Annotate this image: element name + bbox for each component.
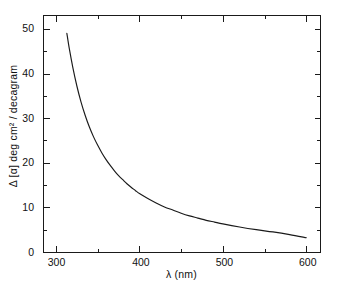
- figure-panel: Δ [α] deg cm² / decagram λ (nm) 50 40 30…: [0, 0, 354, 291]
- plot-area: [0, 0, 354, 291]
- data-series-group: [67, 33, 306, 237]
- axis-ticks: [44, 16, 321, 253]
- data-curve-0: [67, 33, 306, 237]
- axes-frame: [44, 16, 321, 253]
